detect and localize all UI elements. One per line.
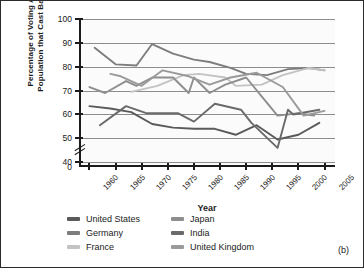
x-tick-label: 1975 bbox=[180, 173, 199, 192]
y-tick-label: 100 bbox=[50, 14, 72, 24]
x-tick-label: 2000 bbox=[311, 173, 330, 192]
y-axis-title-line1: Percentage of Voting Age bbox=[26, 0, 36, 92]
figure-panel: Percentage of Voting Age Population that… bbox=[0, 0, 364, 268]
y-tick-label: 60 bbox=[50, 109, 72, 119]
x-tick-label: 1995 bbox=[285, 173, 304, 192]
series-line bbox=[95, 44, 325, 75]
y-tick-label: 70 bbox=[50, 86, 72, 96]
legend-label: United Kingdom bbox=[190, 242, 254, 252]
series-line bbox=[100, 104, 319, 148]
legend-label: India bbox=[190, 228, 210, 238]
x-tick-label: 1980 bbox=[206, 173, 225, 192]
y-tick-label: 80 bbox=[50, 62, 72, 72]
legend-item[interactable]: Japan bbox=[171, 213, 297, 225]
legend-label: Japan bbox=[190, 214, 215, 224]
legend-column-2: JapanIndiaUnited Kingdom bbox=[171, 213, 297, 253]
legend: United StatesGermanyFrance JapanIndiaUni… bbox=[67, 213, 297, 253]
y-tick-label: 50 bbox=[50, 133, 72, 143]
legend-item[interactable]: United Kingdom bbox=[171, 241, 297, 253]
legend-swatch bbox=[171, 245, 184, 249]
x-tick-label: 1985 bbox=[232, 173, 251, 192]
y-axis-title-line2: Population that Cast Ballots bbox=[36, 0, 46, 92]
x-tick-label: 2005 bbox=[337, 173, 356, 192]
legend-item[interactable]: France bbox=[67, 241, 171, 253]
legend-label: France bbox=[86, 242, 114, 252]
legend-swatch bbox=[67, 217, 80, 221]
legend-label: United States bbox=[86, 214, 140, 224]
x-tick-label: 1970 bbox=[154, 173, 173, 192]
legend-item[interactable]: United States bbox=[67, 213, 171, 225]
y-axis-title: Percentage of Voting Age Population that… bbox=[26, 0, 46, 112]
legend-item[interactable]: Germany bbox=[67, 227, 171, 239]
y-tick-label: 40 bbox=[50, 157, 72, 167]
legend-swatch bbox=[67, 231, 80, 235]
x-tick-label: 1960 bbox=[102, 173, 121, 192]
x-tick-label: 1990 bbox=[258, 173, 277, 192]
legend-swatch bbox=[171, 231, 184, 235]
x-axis-title: Year bbox=[79, 203, 335, 213]
panel-label: (b) bbox=[338, 245, 349, 255]
figure-inner: Percentage of Voting Age Population that… bbox=[5, 5, 359, 263]
legend-swatch bbox=[67, 245, 80, 249]
x-tick-label: 1965 bbox=[128, 173, 147, 192]
y-tick-label: 90 bbox=[50, 38, 72, 48]
legend-swatch bbox=[171, 217, 184, 221]
plot-area: 0405060708090100 19601965197019751980198… bbox=[79, 19, 335, 167]
legend-item[interactable]: India bbox=[171, 227, 297, 239]
series-lines bbox=[79, 19, 335, 167]
legend-label: Germany bbox=[86, 228, 123, 238]
legend-column-1: United StatesGermanyFrance bbox=[67, 213, 171, 253]
